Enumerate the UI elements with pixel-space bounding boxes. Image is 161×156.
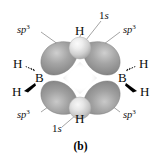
label-1s-top: 1s: [99, 10, 109, 21]
hashed-wedge-left: [26, 66, 34, 71]
orbital-diagram-figure: sp3 sp3 sp3 sp3 1s 1s H H B B H H H H (b…: [0, 0, 161, 156]
label-h-right-upper: H: [139, 57, 148, 70]
label-b-right: B: [118, 71, 127, 84]
label-sp3-bottom-left: sp3: [17, 108, 30, 120]
label-h-left-lower: H: [12, 85, 21, 98]
label-sp3-top-right: sp3: [123, 23, 136, 35]
h-1s-sphere-top: [69, 37, 91, 59]
figure-caption: (b): [0, 140, 161, 152]
label-h-bridge-top: H: [75, 24, 84, 37]
label-1s-bottom: 1s: [52, 123, 62, 134]
label-sp3-bottom-right: sp3: [123, 108, 136, 120]
label-sp3-top-left: sp3: [17, 23, 30, 35]
label-h-right-lower: H: [140, 85, 149, 98]
hashed-wedge-right: [127, 66, 135, 71]
label-h-bridge-bottom: H: [75, 112, 84, 125]
label-h-left-upper: H: [13, 57, 22, 70]
label-b-left: B: [35, 71, 44, 84]
